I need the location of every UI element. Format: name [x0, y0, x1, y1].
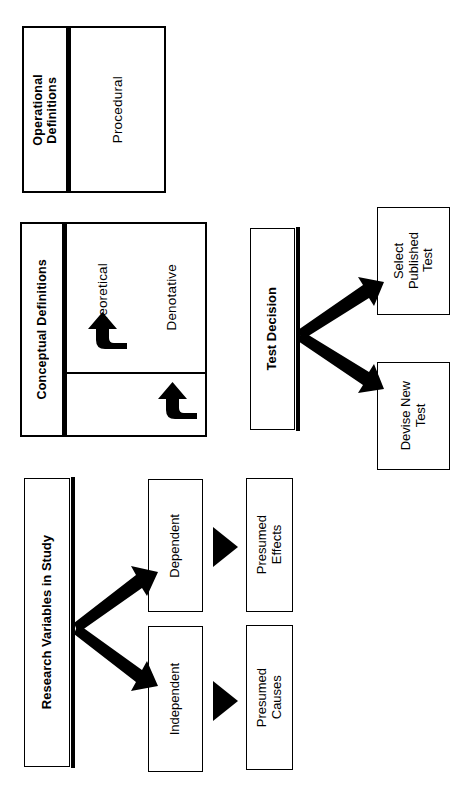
arrow-test-decision-to-select-published [298, 277, 384, 340]
arrow-test-decision-to-devise-new [298, 331, 384, 393]
arrow-research-variables-to-dependent [74, 566, 158, 633]
presumed-effects-label: Presumed Effects [255, 515, 284, 574]
variable-independent-label: Independent [168, 663, 183, 735]
operational-definitions-heading: Operational Definitions [24, 28, 66, 191]
variable-dependent: Dependent [148, 479, 203, 612]
variable-independent: Independent [148, 626, 203, 772]
research-variables-heading-box: Research Variables in Study [24, 478, 70, 767]
operational-heading-divider [66, 26, 71, 193]
outcome-devise-new-test: Devise New Test [377, 362, 450, 470]
variable-dependent-label: Dependent [168, 514, 183, 578]
outcome-select-published-test-label: Select Published Test [392, 232, 436, 289]
conceptual-definitions-heading: Conceptual Definitions [22, 224, 62, 435]
triangle-independent-to-presumed-causes [213, 681, 238, 721]
conceptual-definitions-heading-label: Conceptual Definitions [35, 259, 49, 400]
conceptual-item-denotative: Denotative [138, 224, 206, 371]
triangle-dependent-to-presumed-effects [213, 527, 238, 567]
diagram-canvas: Operational Definitions Procedural Conce… [0, 0, 456, 812]
presumed-causes-label: Presumed Causes [255, 668, 284, 727]
conceptual-item-theoretical: Theoretical [68, 224, 138, 371]
conceptual-heading-divider [62, 222, 67, 437]
arrow-research-variables-to-independent [74, 624, 158, 691]
presumed-causes-box: Presumed Causes [246, 625, 293, 770]
conceptual-item-denotative-label: Denotative [164, 264, 179, 331]
test-decision-heading-box: Test Decision [250, 228, 295, 430]
conceptual-row-divider [67, 372, 208, 374]
operational-definitions-heading-label: Operational Definitions [31, 74, 59, 146]
test-decision-heading-label: Test Decision [265, 287, 280, 371]
presumed-effects-box: Presumed Effects [246, 478, 293, 612]
outcome-devise-new-test-label: Devise New Test [399, 381, 428, 450]
research-variables-heading-label: Research Variables in Study [40, 535, 55, 709]
conceptual-item-theoretical-label: Theoretical [95, 263, 110, 332]
operational-item-procedural: Procedural [72, 28, 164, 191]
outcome-select-published-test: Select Published Test [377, 207, 450, 315]
operational-item-procedural-label: Procedural [110, 76, 125, 143]
